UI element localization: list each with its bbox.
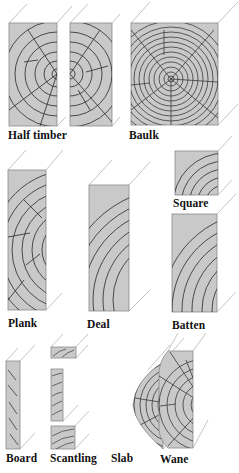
label-slab: Slab: [111, 452, 133, 464]
label-batten: Batten: [172, 319, 205, 331]
baulk-figure: [113, 2, 238, 137]
label-deal: Deal: [87, 318, 110, 330]
label-half-timber: Half timber: [8, 129, 67, 141]
label-square: Square: [173, 197, 209, 209]
wane-figure: [159, 333, 239, 451]
label-plank: Plank: [8, 317, 37, 329]
label-board: Board: [6, 452, 37, 464]
label-scantling: Scantling: [50, 452, 97, 464]
timber-diagram: [0, 0, 239, 473]
scantling-figure: [51, 334, 89, 449]
half-timber-figure: [4, 4, 123, 127]
label-wane: Wane: [160, 453, 189, 465]
label-baulk: Baulk: [129, 129, 159, 141]
board-figure: [6, 345, 35, 449]
